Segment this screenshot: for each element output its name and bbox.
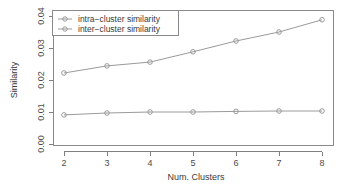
- y-tick-label: 0.02: [36, 71, 46, 89]
- x-tick-label: 2: [61, 158, 66, 168]
- series-1: [62, 109, 325, 118]
- x-axis-ticks: [65, 152, 323, 157]
- x-axis-tick-labels: 2345678: [61, 158, 324, 168]
- y-tick-label: 0.04: [36, 7, 46, 25]
- legend-label: intra−cluster similarity: [78, 14, 161, 24]
- y-axis: 0.000.010.020.030.04: [36, 7, 54, 153]
- y-axis-label: Similarity: [9, 61, 19, 98]
- y-tick-label: 0.01: [36, 103, 46, 121]
- chart-container: Similarity Num. Clusters 0.000.010.020.0…: [0, 0, 349, 188]
- similarity-line-chart: Similarity Num. Clusters 0.000.010.020.0…: [0, 0, 349, 188]
- x-tick-label: 4: [147, 158, 152, 168]
- y-tick-label: 0.00: [36, 135, 46, 153]
- x-tick-label: 7: [276, 158, 281, 168]
- legend-label: inter−cluster similarity: [78, 24, 161, 34]
- x-axis: 2345678: [61, 152, 324, 169]
- x-tick-label: 5: [190, 158, 195, 168]
- x-axis-label: Num. Clusters: [167, 172, 225, 182]
- x-tick-label: 3: [104, 158, 109, 168]
- x-tick-label: 6: [233, 158, 238, 168]
- chart-legend: intra−cluster similarityinter−cluster si…: [53, 11, 179, 36]
- y-axis-tick-labels: 0.000.010.020.030.04: [36, 7, 46, 153]
- y-tick-label: 0.03: [36, 39, 46, 57]
- x-tick-label: 8: [319, 158, 324, 168]
